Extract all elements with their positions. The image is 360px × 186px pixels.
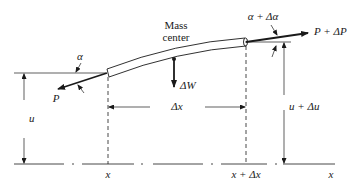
alpha-pointer-top <box>76 63 81 72</box>
alpha-plus-pointer-bottom <box>272 46 276 57</box>
dx-label: Δx <box>170 100 182 112</box>
alpha-pointer-bottom <box>78 85 84 93</box>
u-label: u <box>29 112 35 124</box>
diagram-canvas: Mass center α α + Δα P P + ΔP ΔW Δx u u … <box>0 0 360 186</box>
force-p-plus-dp-label: P + ΔP <box>313 25 347 37</box>
alpha-plus-pointer-top <box>271 25 277 35</box>
string-element-diagram: Mass center α α + Δα P P + ΔP ΔW Δx u u … <box>0 0 360 186</box>
x-plus-dx-label: x + Δx <box>230 168 260 180</box>
force-p-label: P <box>52 92 60 104</box>
string-element <box>107 38 248 77</box>
alpha-plus-delta-alpha-label: α + Δα <box>248 10 279 22</box>
x-axis-label: x <box>328 168 334 180</box>
alpha-label: α <box>77 50 83 62</box>
mass-center-label-line2: center <box>163 31 190 43</box>
mass-center-label-line1: Mass <box>164 19 187 31</box>
u-plus-du-label: u + Δu <box>289 100 320 112</box>
x-label: x <box>105 168 111 180</box>
force-p-arrow <box>58 73 107 89</box>
weight-label: ΔW <box>179 79 196 91</box>
